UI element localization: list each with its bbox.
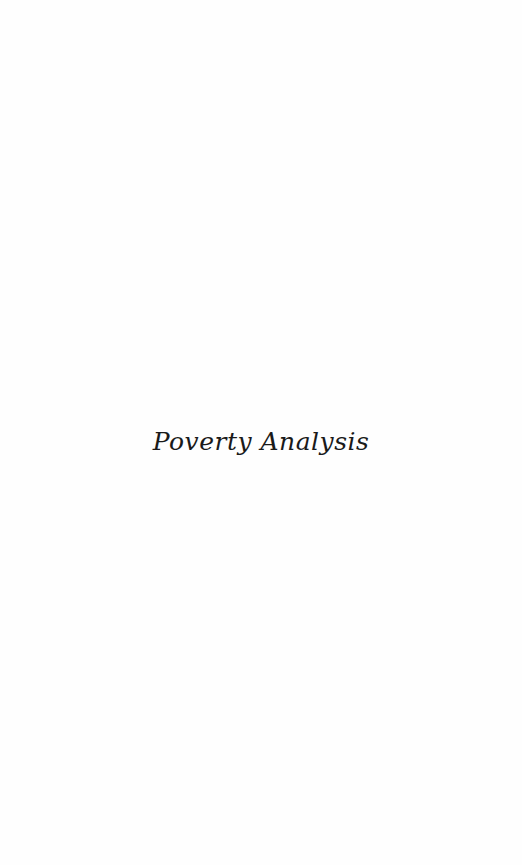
half-title-page: Poverty Analysis bbox=[0, 0, 522, 865]
book-title: Poverty Analysis bbox=[0, 427, 522, 457]
